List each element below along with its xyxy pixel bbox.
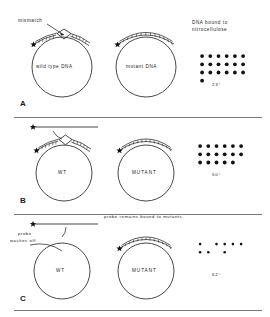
blot-dot bbox=[223, 152, 227, 156]
blot-dot bbox=[240, 243, 243, 246]
radiolabel-star-mutant bbox=[114, 41, 120, 47]
radiolabel-star-probe-b bbox=[30, 124, 36, 130]
radiolabel-star-wt-b bbox=[33, 147, 39, 153]
blot-dot bbox=[223, 161, 227, 165]
radiolabel-star-mutant-c bbox=[116, 245, 122, 251]
blot-dot bbox=[241, 62, 245, 66]
blot-dot bbox=[239, 144, 243, 148]
blot-dot bbox=[208, 54, 212, 58]
blot-dot bbox=[233, 71, 237, 75]
panel-c-graphics bbox=[0, 215, 270, 315]
panel-letter-c: C bbox=[20, 294, 26, 303]
blot-dot bbox=[215, 243, 218, 246]
panel-divider-3 bbox=[14, 310, 262, 311]
blot-dot bbox=[223, 243, 226, 246]
blot-title-line2: nitrocellulose bbox=[192, 27, 227, 32]
blot-dot bbox=[231, 144, 235, 148]
blot-dot bbox=[215, 161, 219, 165]
blot-dot bbox=[241, 54, 245, 58]
blot-dot bbox=[223, 144, 227, 148]
probe-pointer-c bbox=[62, 227, 66, 237]
blot-dot bbox=[200, 71, 204, 75]
radiolabel-star-probe-c bbox=[30, 221, 36, 227]
dot-blot-a bbox=[198, 52, 247, 85]
dot-blot-c bbox=[196, 240, 245, 265]
blot-dot bbox=[200, 79, 204, 83]
blot-dot bbox=[233, 62, 237, 66]
probe-ladder-wt-b bbox=[37, 139, 59, 151]
blot-title-line1: DNA bound to bbox=[192, 20, 228, 25]
blot-dot bbox=[206, 144, 210, 148]
blot-dot bbox=[207, 251, 210, 254]
panel-letter-b: B bbox=[20, 196, 26, 205]
mismatch-arrowhead bbox=[60, 33, 64, 36]
blot-dot bbox=[232, 243, 235, 246]
blot-dot bbox=[199, 243, 202, 246]
blot-dot bbox=[217, 54, 221, 58]
probe-washes-off-line2: washes off bbox=[10, 238, 36, 243]
temperature-label-a: 23° bbox=[212, 82, 221, 87]
blot-dot bbox=[225, 62, 229, 66]
temperature-label-c: 62° bbox=[212, 272, 221, 277]
blot-dot bbox=[198, 152, 202, 156]
blot-dot bbox=[198, 144, 202, 148]
dot-blot-grid bbox=[196, 240, 245, 265]
dot-blot-grid bbox=[198, 52, 247, 85]
blot-dot bbox=[231, 161, 235, 165]
washoff-pointer bbox=[30, 244, 62, 251]
probe-ladder-wt-b-right bbox=[72, 140, 92, 152]
circle-label-wt-c: WT bbox=[56, 268, 65, 273]
blot-dot bbox=[217, 62, 221, 66]
dot-blot-grid bbox=[196, 142, 245, 167]
temperature-label-b: 50° bbox=[212, 172, 221, 177]
probe-ladder-mutant bbox=[118, 32, 174, 44]
mismatch-bubble-b bbox=[59, 135, 72, 145]
blot-dot bbox=[198, 161, 202, 165]
probe-ladder-wt-left bbox=[34, 33, 57, 45]
blot-dot bbox=[217, 71, 221, 75]
blot-dot bbox=[208, 71, 212, 75]
dot-blot-b bbox=[196, 142, 245, 167]
blot-dot bbox=[208, 62, 212, 66]
blot-dot bbox=[206, 152, 210, 156]
blot-dot bbox=[206, 161, 210, 165]
blot-dot bbox=[233, 54, 237, 58]
blot-dot bbox=[200, 54, 204, 58]
circle-label-mutant-b: MUTANT bbox=[132, 170, 157, 175]
radiolabel-star-mutant-b bbox=[116, 147, 122, 153]
blot-dot bbox=[239, 152, 243, 156]
blot-dot bbox=[215, 144, 219, 148]
circle-label-wild-type: wild type DNA bbox=[36, 64, 73, 69]
blot-dot bbox=[200, 62, 204, 66]
blot-dot bbox=[231, 152, 235, 156]
panel-b-graphics bbox=[0, 118, 270, 218]
blot-dot bbox=[215, 152, 219, 156]
radiolabel-star-wt bbox=[30, 41, 36, 47]
probe-washes-off-line1: probe bbox=[18, 231, 32, 236]
blot-dot bbox=[223, 251, 226, 254]
blot-dot bbox=[241, 71, 245, 75]
circle-label-mutant: mutant DNA bbox=[126, 64, 157, 69]
panel-letter-a: A bbox=[20, 99, 26, 108]
figure-canvas: mismatch bbox=[0, 0, 270, 317]
blot-dot bbox=[225, 54, 229, 58]
blot-dot bbox=[199, 251, 202, 254]
probe-pointer-b bbox=[53, 131, 62, 139]
circle-label-mutant-c: MUTANT bbox=[132, 268, 157, 273]
blot-dot bbox=[225, 71, 229, 75]
circle-label-wt-b: WT bbox=[58, 170, 67, 175]
